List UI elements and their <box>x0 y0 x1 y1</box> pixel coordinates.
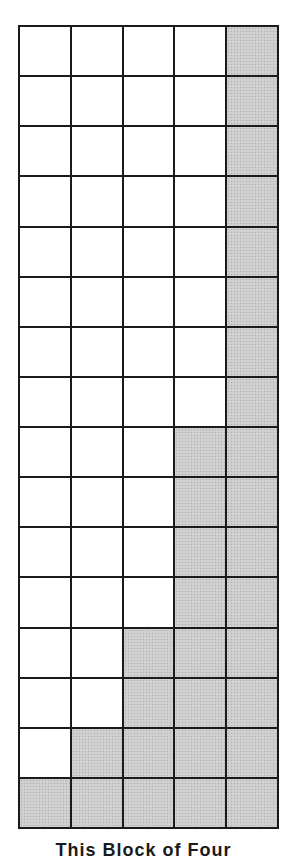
grid-cell-shaded <box>175 679 225 727</box>
grid-cell-empty <box>175 77 225 125</box>
grid-cell-empty <box>20 478 70 526</box>
staircase-grid <box>18 25 279 829</box>
grid-cell-empty <box>20 177 70 225</box>
grid-cell-empty <box>175 228 225 276</box>
grid-cell-empty <box>20 378 70 426</box>
grid-cell-shaded <box>227 729 277 777</box>
grid-cell-empty <box>72 177 122 225</box>
grid-cell-empty <box>20 528 70 576</box>
grid-cell-shaded <box>227 328 277 376</box>
grid-cell-shaded <box>124 629 174 677</box>
grid-cell-shaded <box>227 478 277 526</box>
grid-cell-shaded <box>227 378 277 426</box>
grid-cell-shaded <box>20 779 70 827</box>
grid-cell-empty <box>72 528 122 576</box>
grid-cell-empty <box>124 228 174 276</box>
grid-cell-shaded <box>227 177 277 225</box>
grid-cell-empty <box>124 578 174 626</box>
grid-cell-empty <box>124 177 174 225</box>
grid-cell-shaded <box>72 729 122 777</box>
grid-cell-empty <box>72 328 122 376</box>
grid-cell-empty <box>124 27 174 75</box>
grid-cell-shaded <box>124 679 174 727</box>
grid-cell-empty <box>124 278 174 326</box>
grid-cell-shaded <box>124 729 174 777</box>
grid-cell-empty <box>124 528 174 576</box>
grid-cell-shaded <box>227 27 277 75</box>
grid-cell-empty <box>72 679 122 727</box>
grid-cell-empty <box>20 679 70 727</box>
grid-cell-shaded <box>72 779 122 827</box>
grid-cell-shaded <box>175 779 225 827</box>
grid-cell-empty <box>72 378 122 426</box>
grid-cell-shaded <box>175 478 225 526</box>
grid-cell-empty <box>72 127 122 175</box>
grid-cell-empty <box>175 378 225 426</box>
grid-cell-shaded <box>227 779 277 827</box>
grid-cell-empty <box>124 77 174 125</box>
grid-cell-empty <box>72 77 122 125</box>
grid-cell-empty <box>124 428 174 476</box>
grid-cell-empty <box>72 428 122 476</box>
grid-cell-empty <box>72 629 122 677</box>
grid-cell-empty <box>124 127 174 175</box>
grid-cell-shaded <box>227 77 277 125</box>
grid-cell-shaded <box>227 228 277 276</box>
grid-cell-shaded <box>227 278 277 326</box>
grid-cell-empty <box>124 328 174 376</box>
grid-cell-shaded <box>227 578 277 626</box>
grid-cell-empty <box>72 478 122 526</box>
grid-cell-empty <box>175 127 225 175</box>
grid-cell-empty <box>175 328 225 376</box>
grid-cell-shaded <box>124 779 174 827</box>
grid-cell-empty <box>72 228 122 276</box>
grid-cell-shaded <box>175 428 225 476</box>
grid-cell-empty <box>124 378 174 426</box>
grid-cell-shaded <box>227 679 277 727</box>
grid-cell-shaded <box>175 629 225 677</box>
grid-cell-shaded <box>175 528 225 576</box>
grid-cell-shaded <box>227 127 277 175</box>
grid-cell-shaded <box>175 729 225 777</box>
grid-cell-empty <box>20 228 70 276</box>
grid-cell-empty <box>175 177 225 225</box>
figure-caption: This Block of Four <box>0 840 287 860</box>
grid-cell-shaded <box>227 428 277 476</box>
grid-cell-empty <box>175 27 225 75</box>
grid-cell-empty <box>20 629 70 677</box>
grid-cell-shaded <box>227 528 277 576</box>
grid-cell-empty <box>20 77 70 125</box>
grid-cell-shaded <box>227 629 277 677</box>
grid-cell-empty <box>20 729 70 777</box>
grid-cell-empty <box>20 127 70 175</box>
grid-cell-empty <box>175 278 225 326</box>
grid-cell-empty <box>20 428 70 476</box>
grid-cell-empty <box>20 328 70 376</box>
grid-cell-empty <box>72 578 122 626</box>
grid-cell-empty <box>20 27 70 75</box>
grid-cell-empty <box>72 27 122 75</box>
grid-cell-empty <box>72 278 122 326</box>
grid-cell-empty <box>20 278 70 326</box>
grid-cell-empty <box>124 478 174 526</box>
grid-cell-shaded <box>175 578 225 626</box>
grid-cell-empty <box>20 578 70 626</box>
